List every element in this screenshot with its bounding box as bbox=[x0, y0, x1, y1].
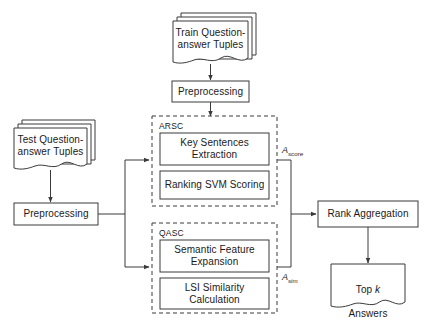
edge-a-score bbox=[277, 160, 291, 214]
semantic-feature-expansion-shape bbox=[160, 240, 269, 272]
diagram-canvas: Train Question- answer Tuples Preprocess… bbox=[0, 0, 428, 329]
diagram-vector-layer bbox=[0, 0, 428, 329]
train-tuples-shape bbox=[173, 13, 256, 63]
a-sim-edge-label: Asim bbox=[282, 272, 298, 286]
rank-aggregation-shape bbox=[318, 201, 418, 227]
top-k-answers-shape bbox=[331, 264, 405, 307]
qasc-group-title: QASC bbox=[159, 228, 184, 238]
test-tuples-shape bbox=[14, 120, 95, 169]
a-score-edge-label: Ascore bbox=[282, 145, 303, 159]
a-score-subscript: score bbox=[288, 150, 303, 157]
ranking-svm-scoring-shape bbox=[160, 171, 269, 199]
lsi-similarity-calculation-shape bbox=[160, 278, 269, 309]
train-preprocessing-shape bbox=[172, 81, 249, 102]
edge-a-sim bbox=[277, 214, 291, 267]
a-sim-subscript: sim bbox=[288, 277, 298, 284]
arsc-group-title: ARSC bbox=[159, 121, 183, 131]
key-sentences-extraction-shape bbox=[160, 133, 269, 165]
test-preprocessing-shape bbox=[14, 203, 98, 225]
